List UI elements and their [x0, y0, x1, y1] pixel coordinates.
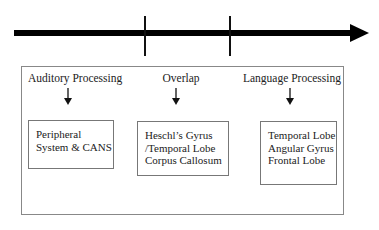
box-line: Peripheral — [36, 128, 113, 141]
down-arrow-icon — [284, 88, 296, 106]
box-line: Angular Gyrus — [268, 142, 336, 155]
heading-overlap: Overlap — [150, 72, 212, 84]
down-arrow-icon — [62, 88, 74, 106]
down-arrow-icon — [170, 88, 182, 106]
heading-language-processing: Language Processing — [242, 72, 342, 84]
box-line: Temporal Lobe — [268, 129, 336, 142]
timeline-arrow-shaft — [14, 30, 354, 36]
box-overlap: Heschl’s Gyrus /Temporal Lobe Corpus Cal… — [137, 121, 229, 176]
box-auditory-processing: Peripheral System & CANS — [28, 120, 114, 169]
box-language-processing: Temporal Lobe Angular Gyrus Frontal Lobe — [260, 121, 337, 185]
box-line: /Temporal Lobe — [145, 142, 228, 155]
box-line: Heschl’s Gyrus — [145, 129, 228, 142]
timeline-tick-2 — [229, 16, 231, 56]
timeline-arrowhead-icon — [350, 24, 369, 42]
heading-auditory-processing: Auditory Processing — [28, 72, 116, 84]
timeline-tick-1 — [144, 16, 146, 56]
box-line: System & CANS — [36, 141, 113, 154]
box-line: Frontal Lobe — [268, 154, 336, 167]
box-line: Corpus Callosum — [145, 154, 228, 167]
